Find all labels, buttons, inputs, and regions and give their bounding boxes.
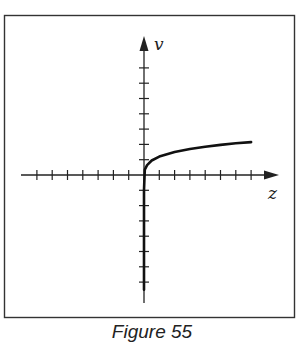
curve-series [144,142,251,290]
axes [21,36,279,303]
figure-frame [5,16,295,318]
y-axis-arrow-icon [140,36,149,51]
x-axis-arrow-icon [264,171,279,180]
x-axis-label: z [267,183,278,203]
y-axis-label: v [154,34,164,54]
figure-caption: Figure 55 [0,321,304,343]
curve-line [144,142,251,290]
